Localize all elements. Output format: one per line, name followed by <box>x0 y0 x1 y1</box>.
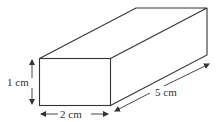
cuboid-edges <box>40 8 208 106</box>
width-label: 2 cm <box>60 109 82 120</box>
length-label: 5 cm <box>155 87 177 98</box>
length-arrow-lower <box>115 93 150 111</box>
height-label: 1 cm <box>7 77 29 88</box>
top-face-edges <box>40 8 208 59</box>
length-arrow-upper <box>164 64 209 86</box>
cuboid-figure <box>0 0 217 122</box>
cuboid-diagram: 1 cm 2 cm 5 cm <box>0 0 217 122</box>
front-face <box>40 59 111 106</box>
